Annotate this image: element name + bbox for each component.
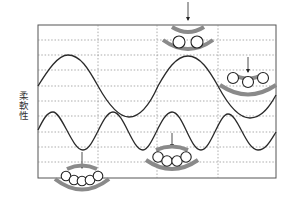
bearing-icon-right bbox=[220, 57, 276, 95]
figure: 柔軟性 bbox=[0, 0, 295, 204]
bearing-icon-bottom-left bbox=[55, 152, 109, 190]
plot-svg bbox=[0, 0, 295, 204]
y-axis-label: 柔軟性 bbox=[15, 91, 29, 121]
